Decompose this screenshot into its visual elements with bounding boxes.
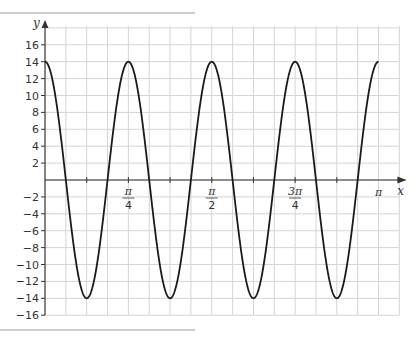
x-tick-label: 3π4	[288, 185, 303, 212]
y-tick-label: 14	[25, 56, 39, 69]
y-tick-label: −14	[16, 292, 39, 305]
svg-text:π: π	[207, 185, 216, 198]
y-tick-label: −10	[16, 259, 39, 272]
svg-text:2: 2	[208, 199, 215, 212]
x-axis-label: x	[397, 184, 404, 198]
y-tick-label: −2	[23, 191, 39, 204]
svg-text:3π: 3π	[288, 185, 303, 198]
y-tick-label: 8	[32, 106, 39, 119]
svg-text:4: 4	[125, 199, 132, 212]
y-tick-label: 16	[25, 39, 39, 52]
y-axis-label: y	[32, 16, 40, 30]
svg-text:π: π	[374, 186, 383, 199]
y-tick-label: 6	[32, 123, 39, 136]
y-tick-label: −4	[23, 208, 39, 221]
y-tick-label: 2	[32, 157, 39, 170]
x-tick-label: π4	[122, 185, 134, 212]
x-axis-arrow-icon	[397, 177, 406, 184]
x-tick-label: π2	[206, 185, 218, 212]
y-tick-label: −16	[16, 309, 39, 322]
svg-text:4: 4	[292, 199, 299, 212]
x-tick-label: π	[374, 186, 383, 199]
y-tick-label: 4	[32, 140, 39, 153]
y-tick-label: −6	[23, 225, 39, 238]
y-tick-label: 10	[25, 90, 39, 103]
y-tick-label: −12	[16, 275, 39, 288]
y-axis-arrow-icon	[42, 20, 49, 28]
svg-text:π: π	[124, 185, 133, 198]
cosine-chart: yx161412108642−2−4−6−8−10−12−14−16π4π23π…	[0, 0, 419, 343]
y-tick-label: −8	[23, 242, 39, 255]
y-tick-label: 12	[25, 73, 39, 86]
